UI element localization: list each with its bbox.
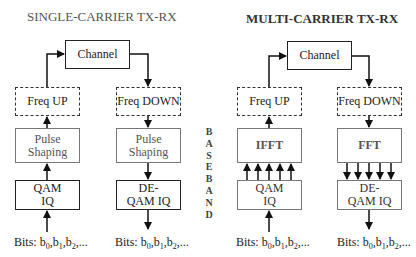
multi-carrier-title: MULTI-CARRIER TX-RX [246, 11, 398, 27]
single-carrier-title: SINGLE-CARRIER TX-RX [27, 9, 177, 25]
bits-sequence: b0,b1,b2,... [141, 235, 189, 249]
single-tx-pulse-shaping-block: Pulse Shaping [15, 128, 80, 163]
multi-qam-block: QAM IQ [237, 180, 302, 210]
single-freq-up-label: Freq UP [27, 95, 67, 108]
bits-sequence: b0,b1,b2,... [40, 235, 88, 249]
multi-freq-down-block: Freq DOWN [337, 87, 402, 116]
multi-freq-down-label: Freq DOWN [338, 95, 400, 108]
bits-sequence: b0,b1,b2,... [262, 235, 310, 249]
bits-prefix: Bits: [236, 235, 259, 249]
single-rx-bits-label: Bits: b0,b1,b2,... [115, 235, 189, 251]
single-qam-block: QAM IQ [15, 180, 80, 210]
bits-prefix: Bits: [14, 235, 37, 249]
multi-rx-bits-label: Bits: b0,b1,b2,... [337, 235, 411, 251]
multi-channel-block: Channel [287, 41, 352, 70]
multi-fft-block: FFT [337, 128, 402, 163]
single-tx-bits-label: Bits: b0,b1,b2,... [14, 235, 88, 251]
single-rx-pulse-shaping-label: Pulse Shaping [125, 133, 172, 159]
bits-sequence: b0,b1,b2,... [363, 235, 411, 249]
multi-ifft-block: IFFT [237, 128, 302, 163]
single-rx-pulse-shaping-block: Pulse Shaping [116, 128, 181, 163]
bits-prefix: Bits: [115, 235, 138, 249]
single-freq-down-label: Freq DOWN [117, 95, 179, 108]
single-freq-down-block: Freq DOWN [116, 87, 181, 116]
single-channel-block: Channel [65, 40, 130, 69]
multi-channel-label: Channel [300, 49, 340, 62]
multi-freq-up-block: Freq UP [237, 87, 302, 116]
multi-ifft-label: IFFT [256, 139, 283, 152]
multi-de-qam-label: DE-QAM IQ [346, 182, 393, 208]
single-qam-label: QAM IQ [32, 182, 63, 208]
multi-freq-up-label: Freq UP [249, 95, 289, 108]
baseband-label: BASEBAND [203, 126, 215, 220]
multi-fft-label: FFT [358, 139, 381, 152]
multi-qam-label: QAM IQ [254, 182, 285, 208]
single-de-qam-label: DE-QAM IQ [125, 182, 172, 208]
single-freq-up-block: Freq UP [15, 87, 80, 116]
single-tx-pulse-shaping-label: Pulse Shaping [24, 133, 71, 159]
multi-de-qam-block: DE-QAM IQ [337, 180, 402, 210]
bits-prefix: Bits: [337, 235, 360, 249]
single-channel-label: Channel [78, 48, 118, 61]
multi-tx-bits-label: Bits: b0,b1,b2,... [236, 235, 310, 251]
single-de-qam-block: DE-QAM IQ [116, 180, 181, 210]
